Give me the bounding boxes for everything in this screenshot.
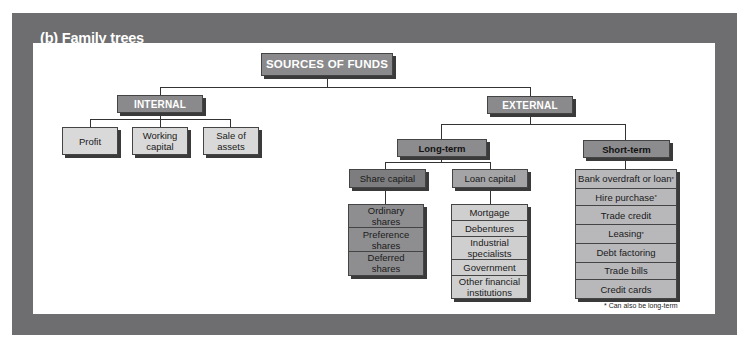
list-item: Debt factoring [576, 244, 676, 263]
list-item: Trade bills [576, 263, 676, 281]
connector [441, 124, 442, 139]
leaf-working-capital: Working capital [132, 127, 188, 155]
list-item: Leasing* [576, 225, 676, 244]
list-item: Industrial specialists [452, 237, 527, 260]
short-term-list: Bank overdraft or loan* Hire purchase* T… [575, 169, 677, 299]
list-item: Mortgage [452, 205, 527, 221]
connector [490, 188, 491, 204]
connector [441, 124, 626, 125]
loan-capital-list: Mortgage Debentures Industrial specialis… [451, 204, 528, 299]
list-item: Ordinary shares [349, 205, 423, 228]
connector [490, 162, 491, 169]
list-item: Government [452, 260, 527, 276]
connector [530, 87, 531, 96]
leaf-sale-of-assets: Sale of assets [203, 127, 259, 155]
connector [90, 119, 91, 127]
list-item: Deferred shares [349, 252, 423, 275]
share-capital-list: Ordinary shares Preference shares Deferr… [348, 204, 424, 276]
connector [530, 114, 531, 124]
list-item: Trade credit [576, 206, 676, 225]
list-item: Credit cards [576, 280, 676, 298]
leaf-profit: Profit [62, 127, 118, 155]
connector [230, 119, 231, 127]
node-share-capital: Share capital [349, 169, 426, 188]
list-item: Hire purchase* [576, 189, 676, 207]
connector [625, 158, 626, 169]
connector [327, 76, 328, 87]
list-item: Debentures [452, 221, 527, 238]
connector [160, 87, 531, 88]
node-short-term: Short-term [583, 140, 670, 158]
footnote: * Can also be long-term [604, 302, 678, 309]
list-item: Preference shares [349, 228, 423, 251]
list-item: Other financial institutions [452, 276, 527, 298]
connector [385, 162, 491, 163]
root-node-sources-of-funds: SOURCES OF FUNDS [261, 53, 393, 76]
connector [625, 124, 626, 140]
connector [160, 119, 161, 127]
node-internal: INTERNAL [117, 95, 203, 113]
node-long-term: Long-term [397, 139, 487, 157]
connector [385, 162, 386, 169]
node-external: EXTERNAL [487, 96, 573, 114]
node-loan-capital: Loan capital [452, 169, 528, 188]
list-item: Bank overdraft or loan* [576, 170, 676, 189]
connector [385, 188, 386, 204]
